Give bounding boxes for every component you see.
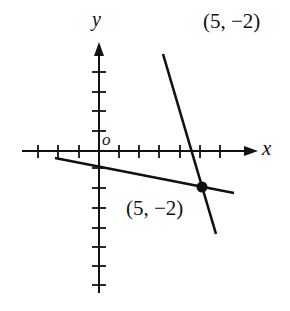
coordinate-plane-diagram: [0, 0, 290, 311]
intersection-point: [197, 182, 208, 193]
x-axis-arrow-icon: [244, 146, 258, 156]
origin-label: o: [102, 131, 111, 148]
top-right-coordinate-annotation: (5, −2): [203, 11, 260, 32]
intersection-coordinate-label: (5, −2): [126, 198, 183, 219]
y-axis-arrow-icon: [94, 42, 104, 56]
x-axis-label: x: [262, 138, 271, 159]
y-axis-label: y: [92, 9, 101, 29]
